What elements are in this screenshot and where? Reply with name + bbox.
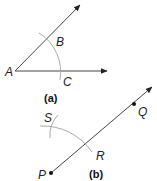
label-p: P — [38, 168, 46, 181]
point-q — [132, 102, 136, 106]
label-r: R — [96, 149, 105, 163]
caption-b: (b) — [89, 168, 103, 180]
point-p — [49, 171, 53, 175]
label-s: S — [44, 111, 52, 125]
ray-ab — [15, 5, 80, 71]
geometry-diagram: A B C (a) S R P Q (b) — [0, 0, 157, 181]
label-q: Q — [138, 105, 147, 119]
label-a: A — [4, 65, 13, 79]
label-c: C — [63, 75, 72, 89]
arc-r — [40, 126, 92, 152]
caption-a: (a) — [44, 92, 58, 104]
label-b: B — [56, 35, 64, 49]
figure-a: A B C (a) — [4, 5, 107, 104]
